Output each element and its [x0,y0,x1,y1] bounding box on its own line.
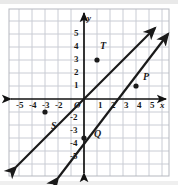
y-tick--4: -4 [70,139,78,148]
y-tick-1: 1 [74,81,79,90]
y-tick-3: 3 [74,55,79,64]
point-label-T: T [100,41,106,51]
x-axis-label: x [160,101,165,110]
x-tick--5: -5 [16,101,24,110]
x-tick--4: -4 [29,101,37,110]
point-marker-T [94,57,99,62]
point-marker-Q [81,135,86,140]
y-tick--3: -3 [70,126,78,135]
y-tick-5: 5 [74,29,79,38]
graph-figure: x y O -5 -4 -3 -2 1 2 3 4 5 5 4 3 2 1 -2… [0,0,178,185]
point-label-S: S [51,121,57,131]
y-tick--2: -2 [70,113,78,122]
y-tick--5: -5 [70,152,78,161]
x-tick-2: 2 [111,101,116,110]
x-tick-5: 5 [150,101,155,110]
y-axis-label: y [87,14,91,23]
y-tick-2: 2 [74,68,79,77]
point-marker-P [133,83,138,88]
point-marker-S [42,109,47,114]
x-tick-3: 3 [124,101,129,110]
x-tick--2: -2 [55,101,63,110]
point-label-P: P [143,72,149,82]
origin-label: O [74,101,81,110]
point-label-Q: Q [94,129,101,139]
coordinate-plane [0,0,178,185]
y-tick-4: 4 [74,42,79,51]
x-tick-4: 4 [137,101,142,110]
x-tick--3: -3 [42,101,50,110]
x-tick-1: 1 [98,101,103,110]
